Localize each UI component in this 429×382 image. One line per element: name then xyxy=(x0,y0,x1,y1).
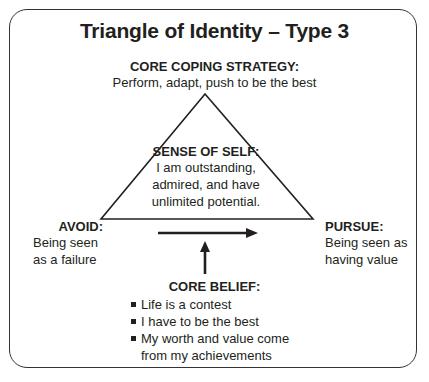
sense-of-self-heading: SENSE OF SELF: xyxy=(130,144,282,159)
pursue: PURSUE: Being seen as having value xyxy=(325,219,415,268)
sense-of-self-line-1: I am outstanding, xyxy=(130,159,282,176)
sense-of-self: SENSE OF SELF: I am outstanding, admired… xyxy=(130,144,282,210)
avoid-line-1: Being seen xyxy=(33,234,103,251)
core-belief: CORE BELIEF: xyxy=(0,279,429,294)
avoid-line-2: as a failure xyxy=(33,251,103,268)
core-belief-heading: CORE BELIEF: xyxy=(0,279,429,294)
core-belief-item: My worth and value come from my achievem… xyxy=(130,330,310,364)
pursue-heading: PURSUE: xyxy=(325,219,415,234)
up-arrow-icon xyxy=(200,241,210,274)
avoid: AVOID: Being seen as a failure xyxy=(33,219,103,268)
core-belief-list: Life is a contest I have to be the best … xyxy=(130,296,310,364)
pursue-line-1: Being seen as xyxy=(325,234,415,251)
core-belief-item: I have to be the best xyxy=(130,313,310,330)
pursue-line-2: having value xyxy=(325,251,415,268)
core-belief-item: Life is a contest xyxy=(130,296,310,313)
sense-of-self-line-3: unlimited potential. xyxy=(130,193,282,210)
core-belief-list-container: Life is a contest I have to be the best … xyxy=(130,296,310,364)
avoid-heading: AVOID: xyxy=(33,219,103,234)
right-arrow-icon xyxy=(158,228,258,238)
sense-of-self-line-2: admired, and have xyxy=(130,176,282,193)
